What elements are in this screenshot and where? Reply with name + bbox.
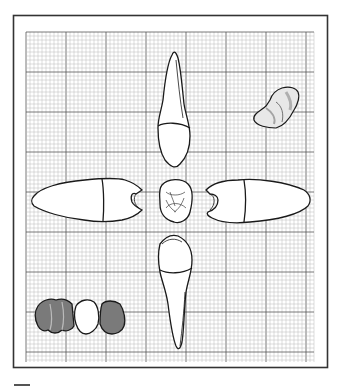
lower-left-bridge <box>35 299 125 334</box>
dental-grid-figure <box>0 0 341 389</box>
corner-mark <box>14 384 30 386</box>
center-occlusal-view <box>160 180 193 223</box>
